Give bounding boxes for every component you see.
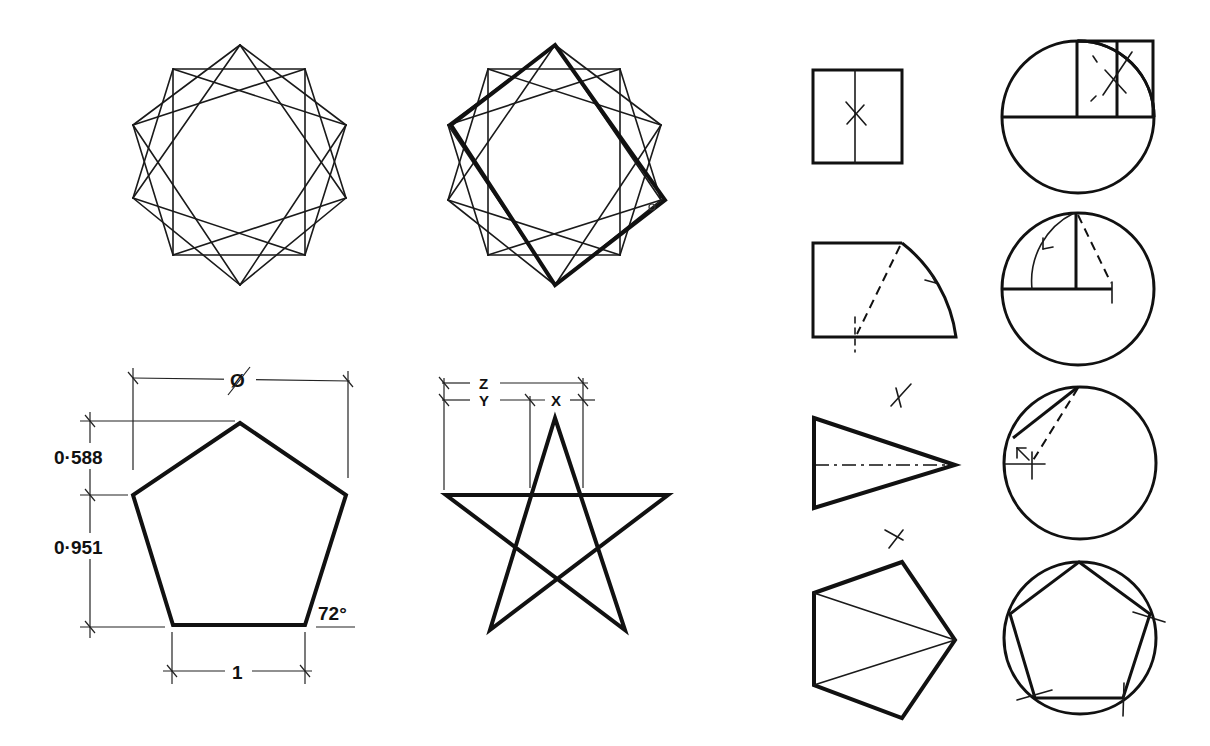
dimension-y-label: Y — [479, 392, 489, 409]
dimension-z-label: Z — [479, 375, 488, 392]
decagram-with-rectangle — [448, 45, 661, 285]
side-length-label: 1 — [232, 662, 243, 683]
construction-step-2 — [813, 212, 1154, 365]
construction-step-4 — [814, 530, 1165, 718]
height-body-label: 0·951 — [54, 537, 103, 558]
construction-step-1 — [813, 40, 1154, 193]
golden-rectangle-highlight — [451, 45, 665, 285]
decagram-plain — [133, 45, 346, 285]
dimension-x-label: X — [551, 392, 561, 409]
height-top-label: 0·588 — [54, 447, 103, 468]
geometry-figure: Ø 0·588 0·951 72° 1 — [0, 0, 1210, 746]
pentagon-dimensioned: Ø 0·588 0·951 72° 1 — [52, 366, 355, 684]
diameter-label: Ø — [230, 370, 245, 391]
pentagram-dimensioned: Z Y X — [439, 375, 668, 630]
construction-step-3 — [814, 384, 1156, 539]
angle-label: 72° — [318, 603, 347, 624]
